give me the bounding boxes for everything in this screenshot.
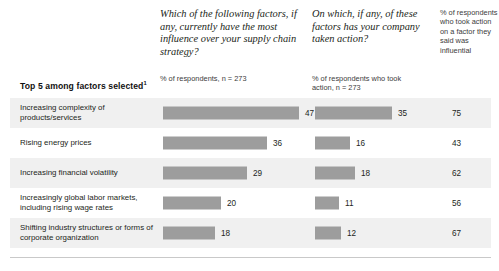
bar-value-influence: 18 bbox=[221, 229, 230, 238]
value-took-action-share: 75 bbox=[452, 109, 461, 118]
bar-value-influence: 47 bbox=[305, 109, 314, 118]
table-row: Rising energy prices 36 16 43 bbox=[0, 128, 499, 158]
table-row: Shifting industry structures or forms of… bbox=[0, 218, 499, 248]
table-row: Increasing financial volatility 29 18 62 bbox=[0, 158, 499, 188]
question-column-1: Which of the following factors, if any, … bbox=[160, 8, 300, 58]
value-took-action-share: 56 bbox=[452, 199, 461, 208]
bar-group-influence: 20 bbox=[163, 197, 308, 210]
bar-action bbox=[315, 197, 339, 210]
row-label: Increasingly global labor markets, inclu… bbox=[20, 193, 160, 212]
bar-value-influence: 29 bbox=[253, 169, 262, 178]
question-2-text: On which, if any, of these factors has y… bbox=[312, 8, 422, 46]
bar-influence bbox=[163, 167, 247, 180]
bar-influence bbox=[163, 137, 267, 150]
bar-value-influence: 36 bbox=[273, 139, 282, 148]
value-took-action-share: 67 bbox=[452, 229, 461, 238]
bar-influence bbox=[163, 107, 299, 120]
bar-group-action: 18 bbox=[315, 167, 425, 180]
bar-group-action: 16 bbox=[315, 137, 425, 150]
bar-value-action: 35 bbox=[398, 109, 407, 118]
top5-footnote-marker: 1 bbox=[143, 80, 146, 86]
question-2-subtitle: % of respondents who took action, n = 27… bbox=[312, 74, 424, 93]
row-label: Shifting industry structures or forms of… bbox=[20, 223, 160, 242]
bar-group-action: 12 bbox=[315, 227, 425, 240]
top5-heading-label: Top 5 among factors selected bbox=[20, 81, 143, 91]
bar-influence bbox=[163, 197, 221, 210]
bar-group-action: 35 bbox=[315, 107, 425, 120]
exhibit-header: Which of the following factors, if any, … bbox=[0, 0, 499, 96]
table-row: Increasingly global labor markets, inclu… bbox=[0, 188, 499, 218]
bar-group-influence: 47 bbox=[163, 107, 308, 120]
question-column-2: On which, if any, of these factors has y… bbox=[312, 8, 422, 46]
bar-value-influence: 20 bbox=[227, 199, 236, 208]
bar-action bbox=[315, 167, 355, 180]
bar-value-action: 11 bbox=[345, 199, 354, 208]
chart-exhibit: Which of the following factors, if any, … bbox=[0, 0, 499, 271]
column-3-note: % of respondents who took action on a fa… bbox=[440, 8, 499, 55]
question-1-text: Which of the following factors, if any, … bbox=[160, 8, 300, 58]
row-label: Rising energy prices bbox=[20, 138, 160, 148]
bar-action bbox=[315, 107, 392, 120]
bar-value-action: 12 bbox=[347, 229, 356, 238]
row-label: Increasing complexity of products/servic… bbox=[20, 103, 160, 122]
bar-influence bbox=[163, 227, 215, 240]
chart-rows: Increasing complexity of products/servic… bbox=[0, 98, 499, 248]
bar-group-action: 11 bbox=[315, 197, 425, 210]
row-label: Increasing financial volatility bbox=[20, 168, 160, 178]
bar-action bbox=[315, 227, 341, 240]
bar-value-action: 16 bbox=[356, 139, 365, 148]
bar-group-influence: 36 bbox=[163, 137, 308, 150]
bar-group-influence: 29 bbox=[163, 167, 308, 180]
question-1-subtitle: % of respondents, n = 273 bbox=[160, 74, 310, 83]
value-took-action-share: 43 bbox=[452, 139, 461, 148]
table-row: Increasing complexity of products/servic… bbox=[0, 98, 499, 128]
bar-value-action: 18 bbox=[361, 169, 370, 178]
bottom-divider bbox=[10, 257, 491, 258]
bar-group-influence: 18 bbox=[163, 227, 308, 240]
value-took-action-share: 62 bbox=[452, 169, 461, 178]
bar-action bbox=[315, 137, 350, 150]
top5-heading: Top 5 among factors selected1 bbox=[20, 80, 147, 91]
